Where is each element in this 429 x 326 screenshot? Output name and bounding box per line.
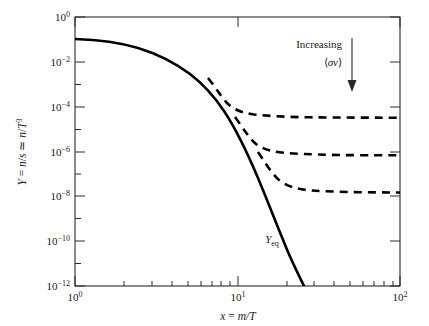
chart-svg: 100 10−2 10−4 10−6 10−8 10−10 10−12 (0, 0, 429, 326)
y-axis-label: Y = n/s ≃ n/T3 (15, 118, 28, 185)
x-axis-label: x = m/T (219, 310, 257, 322)
increasing-label-line2: ⟨σv⟩ (324, 56, 342, 68)
relic-abundance-chart: 100 10−2 10−4 10−6 10−8 10−10 10−12 (0, 0, 429, 326)
increasing-label-line1: Increasing (296, 38, 342, 50)
chart-background (0, 0, 429, 326)
